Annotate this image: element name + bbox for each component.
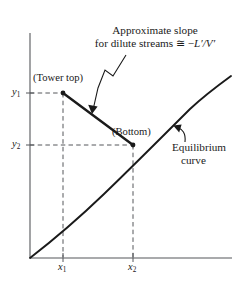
y2-axis-label-sub: 2 [17,143,21,151]
equilibrium-curve-label: Equilibrium curve [172,141,226,167]
slope-note-leader-line [93,55,126,110]
y1-axis-label-sub: 1 [17,91,21,99]
y1-axis-label-base: y [12,86,17,97]
slope-annotation-line-1: Approximate slope [74,24,236,37]
x2-axis-label-base: x [128,261,133,272]
x2-axis-label: x2 [128,261,136,273]
slope-annotation-line-2: for dilute streams ≅ −L′/V′ [74,37,236,50]
bottom-label: (Bottom) [112,126,151,138]
x2-axis-label-sub: 2 [133,266,137,274]
tower-top-label: (Tower top) [33,72,83,84]
equilibrium-curve-label-line-1: Equilibrium [172,141,226,154]
equilibrium-curve-label-line-2: curve [172,154,226,167]
y2-axis-label-base: y [12,138,17,149]
y2-axis-label: y2 [12,138,20,150]
slope-annotation: Approximate slope for dilute streams ≅ −… [74,24,236,49]
bottom-point-marker [131,143,136,148]
slope-annotation-math: L′/V′ [194,37,215,49]
y1-axis-label: y1 [12,86,20,98]
x1-axis-label-sub: 1 [63,266,67,274]
equilibrium-leader-arrowhead [173,124,181,132]
x1-axis-label-base: x [58,261,63,272]
equilibrium-operating-line-diagram: Approximate slope for dilute streams ≅ −… [0,0,245,285]
slope-annotation-symbol: ≅ − [176,37,194,49]
slope-annotation-line-2-prefix: for dilute streams [95,37,176,49]
tower-top-point-marker [61,91,66,96]
x1-axis-label: x1 [58,261,66,273]
